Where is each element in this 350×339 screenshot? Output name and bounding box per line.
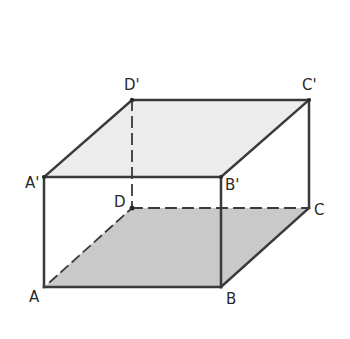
vertex-dot-C1 [307,98,311,102]
label-D-prime: D' [124,78,140,93]
label-C: C [314,203,324,218]
label-A-prime: A' [25,176,39,191]
rectangular-prism-figure: D' C' A' B' D C A B [0,0,350,339]
vertex-dot-A1 [42,175,46,179]
bottom-face [44,208,309,287]
label-A: A [29,290,39,305]
top-face [44,100,309,177]
vertex-dot-D [130,206,135,211]
vertex-dot-B1 [219,175,223,179]
vertex-dot-D1 [130,98,134,102]
label-D: D [114,195,126,210]
label-B-prime: B' [225,178,239,193]
label-B: B [226,292,236,307]
prism-svg [0,0,350,339]
label-C-prime: C' [302,78,317,93]
